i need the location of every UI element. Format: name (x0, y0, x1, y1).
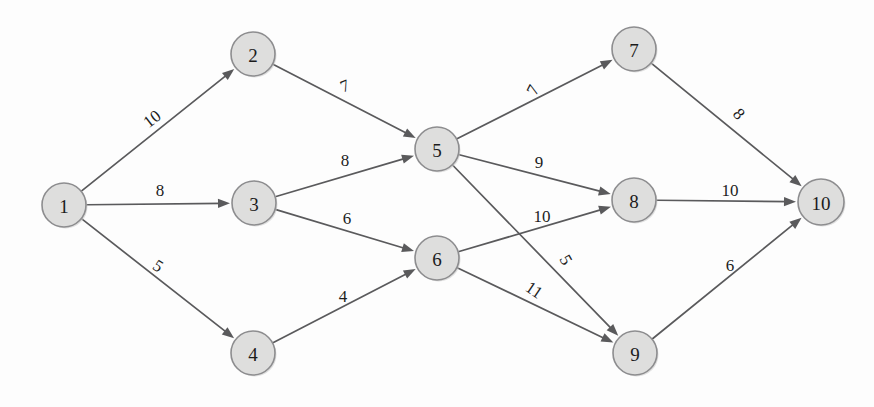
edge-line (273, 272, 409, 342)
edge-line (273, 65, 409, 135)
edge-weight-label: 8 (729, 104, 749, 123)
edge-weight-label: 5 (149, 256, 166, 277)
edges-layer (82, 60, 802, 343)
edge-arrowhead (222, 327, 234, 338)
graph-node-2[interactable]: 2 (231, 32, 277, 78)
graph-node-8[interactable]: 8 (612, 178, 658, 224)
edge-5-7 (458, 60, 613, 139)
node-label: 1 (59, 196, 69, 217)
node-label: 5 (432, 140, 442, 161)
edge-1-3 (87, 199, 230, 208)
node-label: 4 (248, 344, 258, 365)
edge-line (459, 155, 603, 192)
edge-4-6 (273, 269, 415, 342)
edge-arrowhead (784, 197, 796, 206)
edge-arrowhead (401, 243, 414, 252)
edge-weight-label: 4 (339, 287, 348, 306)
edge-arrowhead (403, 128, 416, 138)
graph-node-6[interactable]: 6 (415, 236, 461, 282)
edge-line (653, 222, 796, 338)
edge-weight-label: 11 (522, 278, 546, 303)
node-label: 8 (629, 191, 639, 212)
edge-weight-label: 8 (341, 151, 350, 170)
edge-line (87, 203, 223, 204)
edge-9-10 (653, 218, 802, 339)
edge-line (657, 200, 789, 201)
edge-line (453, 166, 613, 331)
edge-7-10 (652, 64, 802, 187)
edge-weight-label: 8 (156, 181, 165, 200)
node-label: 9 (630, 344, 640, 365)
edge-weight-label: 9 (535, 153, 544, 172)
graph-node-10[interactable]: 10 (798, 179, 846, 227)
edge-arrowhead (401, 155, 414, 164)
edge-arrowhead (598, 187, 611, 196)
edge-arrowhead (601, 333, 614, 342)
edge-weight-label: 10 (722, 181, 739, 200)
edge-arrowhead (218, 199, 230, 208)
graph-diagram: 12345678910 1085786479510118106 (0, 0, 874, 407)
edge-arrowhead (598, 206, 611, 215)
edge-weight-label: 6 (726, 256, 735, 275)
edge-weight-label: 5 (556, 252, 577, 269)
edge-weight-label: 10 (534, 207, 551, 226)
graph-node-1[interactable]: 1 (42, 183, 88, 229)
graph-node-3[interactable]: 3 (232, 181, 278, 227)
node-label: 3 (249, 194, 259, 215)
edge-arrowhead (403, 269, 416, 279)
node-label: 2 (248, 45, 258, 66)
edge-arrowhead (222, 69, 234, 80)
node-label: 10 (812, 193, 831, 214)
graph-node-5[interactable]: 5 (415, 127, 461, 173)
edge-weight-label: 7 (523, 81, 544, 98)
graph-canvas: 12345678910 1085786479510118106 (0, 0, 874, 407)
edge-arrowhead (600, 60, 613, 70)
edge-line (652, 64, 796, 182)
edge-line (82, 219, 228, 333)
graph-node-4[interactable]: 4 (231, 331, 277, 377)
edge-line (458, 63, 606, 138)
edge-line (276, 210, 407, 249)
edge-weight-label: 7 (338, 75, 353, 96)
node-label: 7 (629, 40, 639, 61)
graph-node-9[interactable]: 9 (613, 331, 659, 377)
node-label: 6 (432, 249, 442, 270)
edge-5-9 (453, 166, 618, 336)
graph-node-7[interactable]: 7 (612, 27, 658, 73)
edge-1-2 (82, 69, 234, 191)
edge-line (82, 74, 228, 191)
edge-weight-label: 6 (343, 209, 352, 228)
edge-1-4 (82, 219, 234, 338)
